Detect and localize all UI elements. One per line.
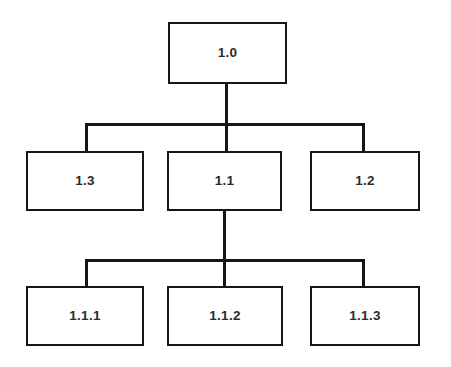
tree-node-label: 1.3 xyxy=(75,174,95,188)
tree-node-1-1-1[interactable]: 1.1.1 xyxy=(26,286,144,346)
tree-node-root[interactable]: 1.0 xyxy=(168,22,287,84)
tree-node-label: 1.0 xyxy=(218,46,238,60)
tree-node-1-3[interactable]: 1.3 xyxy=(26,151,144,211)
diagram-canvas: 1.0 1.3 1.1 1.2 1.1.1 1.1.2 1.1.3 xyxy=(0,0,451,367)
tree-node-label: 1.1.3 xyxy=(349,309,381,323)
connector-drop-to-node-1-2 xyxy=(362,123,365,153)
connector-drop-to-node-1-1-2 xyxy=(223,259,226,288)
connector-drop-to-node-1-1 xyxy=(225,123,228,153)
tree-node-label: 1.2 xyxy=(355,174,375,188)
tree-node-1-1-3[interactable]: 1.1.3 xyxy=(310,286,420,346)
tree-node-1-1-2[interactable]: 1.1.2 xyxy=(167,286,283,346)
connector-drop-to-node-1-1-1 xyxy=(85,259,88,288)
tree-node-label: 1.1.2 xyxy=(209,309,241,323)
tree-node-1-2[interactable]: 1.2 xyxy=(310,151,420,211)
tree-node-1-1[interactable]: 1.1 xyxy=(167,151,282,211)
connector-node-1-1-stem xyxy=(223,209,226,261)
connector-drop-to-node-1-3 xyxy=(85,123,88,153)
connector-drop-to-node-1-1-3 xyxy=(362,259,365,288)
connector-root-stem xyxy=(225,82,228,126)
tree-node-label: 1.1 xyxy=(215,174,235,188)
tree-node-label: 1.1.1 xyxy=(69,309,101,323)
